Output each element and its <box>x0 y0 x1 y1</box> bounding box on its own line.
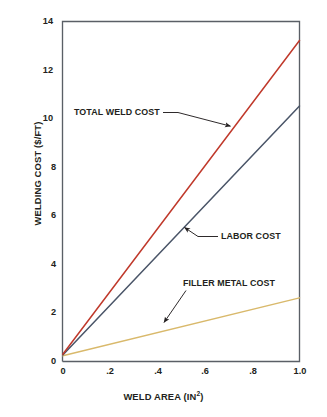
x-tick-label-0: 0 <box>43 367 83 376</box>
x-tick-label-1-0: 1.0 <box>280 367 320 376</box>
x-axis-title-suffix: ) <box>200 391 203 402</box>
y-tick-label-14: 14 <box>19 17 53 26</box>
chart-figure: 0 2 4 6 8 10 12 14 0 .2 .4 .6 .8 1.0 WEL… <box>0 0 327 417</box>
plot-background <box>62 21 300 361</box>
annotation-labor-cost: LABOR COST <box>221 232 281 241</box>
x-tick-label-0-4: .4 <box>138 367 178 376</box>
chart-svg <box>0 0 327 417</box>
x-tick-label-0-8: .8 <box>233 367 273 376</box>
x-axis-title-main: WELD AREA (IN <box>123 391 196 402</box>
y-tick-label-0: 0 <box>22 357 56 366</box>
annotation-total-weld-cost: TOTAL WELD COST <box>74 108 160 117</box>
annotation-filler-metal-cost: FILLER METAL COST <box>183 279 275 288</box>
y-tick-label-2: 2 <box>22 308 56 317</box>
x-tick-label-0-2: .2 <box>90 367 130 376</box>
y-axis-title: WELDING COST ($/FT) <box>32 74 43 274</box>
x-axis-title: WELD AREA (IN2) <box>0 391 327 402</box>
x-tick-label-0-6: .6 <box>185 367 225 376</box>
